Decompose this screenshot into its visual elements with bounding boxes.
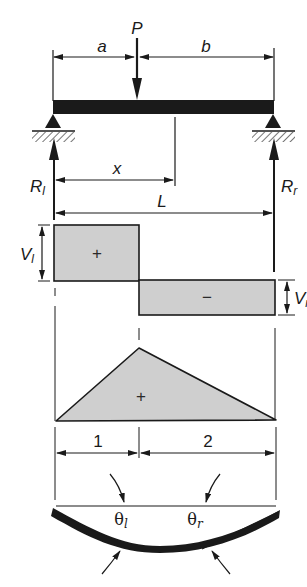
right-tangent-line [202,512,278,549]
reaction-left-arrow-icon [49,138,59,220]
theta-right-label: θr [187,510,204,531]
moment-diagram: + 1 2 [55,348,276,500]
region-1-label: 1 [93,432,102,451]
load-arrow-icon [132,38,142,100]
dimension-b-label: b [201,37,210,56]
beam-diagram: a b P Rl [0,0,307,587]
right-pin-support-icon [252,114,295,142]
shear-left-label: Vl [20,245,34,266]
theta-left-bottom-pointer-icon [102,551,120,574]
deflected-beam [51,508,280,553]
theta-right-bottom-pointer-icon [212,551,230,574]
moment-positive-sign: + [136,387,146,406]
left-pin-support-icon [32,114,75,142]
theta-left-top-pointer-icon [110,474,124,502]
shear-right-label: Vr [294,289,307,310]
dimension-a-label: a [97,37,106,56]
dimension-L-label: L [157,192,166,211]
theta-right-top-pointer-icon [206,474,220,502]
deflection-diagram: θl θr [51,474,280,574]
load-label: P [131,19,143,38]
region-2-label: 2 [203,432,212,451]
reaction-right-arrow-icon [269,138,279,272]
reaction-left-label: Rl [30,177,45,198]
dimension-x-label: x [112,159,122,178]
moment-triangle [56,348,276,421]
shear-negative-sign: − [202,288,212,307]
reaction-right-label: Rr [281,177,298,198]
shear-positive-sign: + [92,244,102,263]
beam [53,100,274,114]
theta-left-label: θl [114,510,128,531]
